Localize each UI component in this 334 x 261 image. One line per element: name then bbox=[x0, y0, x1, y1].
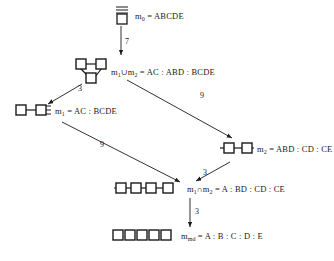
node-m0[interactable]: m0 = ABCDE bbox=[112, 4, 184, 30]
five-separate-boxes-icon bbox=[112, 228, 178, 246]
node-mmd-label: mmd = A : B : C : D : E bbox=[178, 232, 263, 242]
node-union[interactable]: m1∪m2 = AC : ABD : BCDE bbox=[74, 57, 215, 89]
edge-label-union-m1: 3 bbox=[78, 85, 82, 93]
edge-label-m1-intersection: 9 bbox=[100, 141, 104, 149]
node-m2[interactable]: m2 = ABD : CD : CE bbox=[220, 141, 332, 159]
node-m1[interactable]: m1 = AC : BCDE bbox=[14, 103, 117, 121]
node-intersection-label: m1∩m2 = A : BD : CD : CE bbox=[184, 185, 285, 195]
edge-label-union-m2: 9 bbox=[200, 92, 204, 100]
edge-m1-intersection bbox=[62, 122, 180, 182]
node-m1-label: m1 = AC : BCDE bbox=[52, 107, 117, 117]
three-box-chain-icon bbox=[220, 141, 254, 159]
edge-label-m0-union: 7 bbox=[125, 38, 129, 46]
edge-layer bbox=[0, 0, 334, 261]
edge-m2-intersection bbox=[196, 162, 230, 181]
edge-label-intersection-mmd: 3 bbox=[195, 208, 199, 216]
node-mmd[interactable]: mmd = A : B : C : D : E bbox=[112, 228, 263, 246]
edge-label-m2-intersection: 3 bbox=[203, 169, 207, 177]
node-m0-label: m0 = ABCDE bbox=[132, 12, 184, 22]
node-intersection[interactable]: m1∩m2 = A : BD : CD : CE bbox=[114, 181, 285, 199]
complete-graph-icon bbox=[112, 4, 132, 30]
node-union-label: m1∪m2 = AC : ABD : BCDE bbox=[108, 68, 215, 78]
node-m2-label: m2 = ABD : CD : CE bbox=[254, 145, 332, 155]
four-box-chain-icon bbox=[114, 181, 184, 199]
diagram-canvas: m0 = ABCDE m1∪m2 = AC : ABD : BCDE bbox=[0, 0, 334, 261]
two-box-chain-icon bbox=[14, 103, 52, 121]
